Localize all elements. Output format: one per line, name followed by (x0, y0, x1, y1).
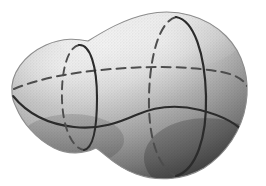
figure-container: Shaded closed surface with cross-section… (0, 0, 266, 186)
surface-body (0, 0, 266, 186)
surface-shading (0, 0, 266, 186)
surface-illustration (0, 0, 266, 186)
halftone-texture (0, 0, 266, 186)
